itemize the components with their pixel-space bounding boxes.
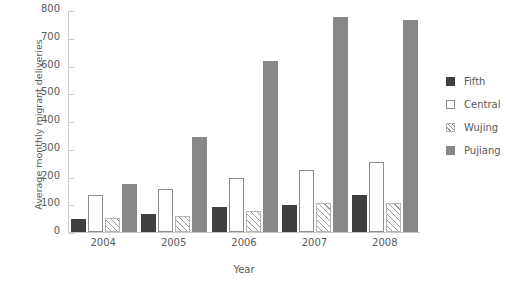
bar-central-2007[interactable] — [299, 170, 314, 232]
y-axis-tick-label: 300 — [41, 142, 60, 153]
legend-item-fifth[interactable]: Fifth — [446, 70, 522, 93]
x-axis-label-2004: 2004 — [68, 237, 138, 248]
bar-fifth-2005[interactable] — [141, 214, 156, 232]
bar-pujiang-2007[interactable] — [333, 17, 348, 232]
bar-wujing-2007[interactable] — [316, 203, 331, 232]
x-axis-tick-labels: 20042005200620072008 — [68, 237, 420, 248]
bar-wujing-2008[interactable] — [386, 203, 401, 232]
y-axis-tick-label: 600 — [41, 59, 60, 70]
bar-fifth-2006[interactable] — [212, 207, 227, 232]
legend-swatch-wujing-icon — [446, 123, 455, 132]
bar-group-2005 — [139, 11, 209, 232]
legend-item-wujing[interactable]: Wujing — [446, 116, 522, 139]
bar-group-2008 — [350, 11, 420, 232]
x-axis-title: Year — [68, 264, 420, 275]
bar-group-2007 — [280, 11, 350, 232]
y-axis-tick-label: 500 — [41, 86, 60, 97]
legend-item-central[interactable]: Central — [446, 93, 522, 116]
x-axis-label-2006: 2006 — [209, 237, 279, 248]
bar-pujiang-2008[interactable] — [403, 20, 418, 232]
bar-group-2006 — [209, 11, 279, 232]
legend-label: Fifth — [464, 76, 485, 87]
bar-wujing-2006[interactable] — [246, 211, 261, 232]
y-axis-tick-label: 100 — [41, 197, 60, 208]
bar-pujiang-2005[interactable] — [192, 137, 207, 232]
bar-groups — [69, 11, 420, 232]
bar-fifth-2008[interactable] — [352, 195, 367, 232]
bar-fifth-2007[interactable] — [282, 205, 297, 232]
legend-label: Pujiang — [464, 145, 501, 156]
bar-central-2005[interactable] — [158, 189, 173, 232]
plot-area: 0100200300400500600700800 — [68, 11, 420, 233]
bar-central-2006[interactable] — [229, 178, 244, 232]
x-axis-label-2007: 2007 — [279, 237, 349, 248]
bar-pujiang-2006[interactable] — [263, 61, 278, 232]
y-axis-tick-label: 400 — [41, 114, 60, 125]
bar-group-2004 — [69, 11, 139, 232]
legend-label: Central — [464, 99, 500, 110]
x-axis-label-2008: 2008 — [350, 237, 420, 248]
y-axis-tick-label: 700 — [41, 31, 60, 42]
y-axis-tick-label: 800 — [41, 3, 60, 14]
legend: FifthCentralWujingPujiang — [446, 70, 522, 162]
legend-swatch-fifth-icon — [446, 77, 455, 86]
bar-wujing-2004[interactable] — [105, 218, 120, 232]
chart-container: Average monthly migrant deliveries 01002… — [0, 0, 522, 295]
bar-fifth-2004[interactable] — [71, 219, 86, 232]
bar-pujiang-2004[interactable] — [122, 184, 137, 232]
legend-item-pujiang[interactable]: Pujiang — [446, 139, 522, 162]
y-axis-tick-label: 200 — [41, 170, 60, 181]
legend-label: Wujing — [464, 122, 498, 133]
bar-central-2008[interactable] — [369, 162, 384, 232]
y-axis-tick-mark — [69, 233, 74, 234]
bar-wujing-2005[interactable] — [175, 216, 190, 232]
y-axis-tick-label: 0 — [54, 225, 60, 236]
legend-swatch-central-icon — [446, 100, 455, 109]
x-axis-label-2005: 2005 — [138, 237, 208, 248]
bar-central-2004[interactable] — [88, 195, 103, 232]
legend-swatch-pujiang-icon — [446, 146, 455, 155]
